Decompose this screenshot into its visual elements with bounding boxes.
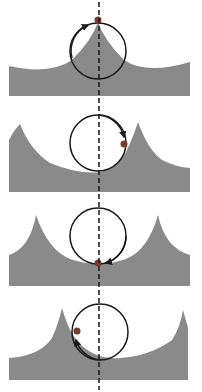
tracing-dot-1 <box>95 17 102 24</box>
rolling-circle-diagram <box>0 0 202 392</box>
rolling-circle-4 <box>72 304 128 360</box>
rotation-arrow-3 <box>106 236 126 263</box>
tracing-dot-2 <box>121 141 128 148</box>
tracing-dot-3 <box>95 260 102 267</box>
tracing-dot-4 <box>74 328 81 335</box>
